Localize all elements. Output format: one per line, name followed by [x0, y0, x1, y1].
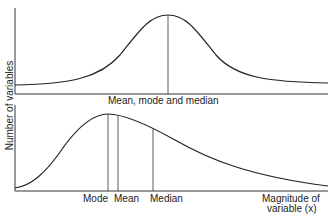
median-label: Median — [150, 193, 183, 204]
distribution-charts — [0, 0, 329, 214]
mean-label: Mean — [114, 193, 139, 204]
x-axis-label-line2: variable (x) — [267, 203, 316, 214]
mode-label: Mode — [83, 193, 108, 204]
top-bell-curve — [15, 15, 328, 85]
top-marker-label: Mean, mode and median — [108, 95, 219, 106]
bottom-skewed-curve — [15, 114, 328, 188]
y-axis-label: Number of variables — [4, 61, 15, 151]
